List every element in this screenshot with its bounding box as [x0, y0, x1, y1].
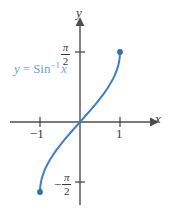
curve-endpoint-upper: [117, 49, 123, 55]
x-tick-label-neg1: −1: [30, 127, 44, 140]
curve-endpoint-lower: [37, 189, 43, 195]
x-tick-label-pos1: 1: [116, 127, 123, 140]
fraction-numerator: π: [63, 172, 71, 183]
curve-equation-label: y=Sin−1x: [14, 61, 67, 75]
plot-canvas: [0, 0, 171, 217]
y-tick-sign-negative: −: [54, 178, 61, 191]
y-axis-label: y: [76, 6, 82, 19]
arcsine-graph-figure: x y −1 1 π 2 − π 2 y=Sin−1x: [0, 0, 171, 217]
y-tick-label-neg-pi-over-2: − π 2: [54, 172, 71, 197]
fraction-numerator: π: [62, 42, 70, 53]
equation-function-name: Sin: [33, 61, 50, 76]
equation-y-variable: y: [14, 61, 20, 76]
fraction-denominator: 2: [63, 186, 71, 197]
equation-exponent: −1: [50, 60, 60, 70]
fraction-neg-pi-over-2: π 2: [62, 172, 71, 197]
equation-argument: x: [61, 61, 67, 76]
equation-equals-sign: =: [23, 61, 30, 76]
x-axis-label: x: [155, 112, 161, 125]
